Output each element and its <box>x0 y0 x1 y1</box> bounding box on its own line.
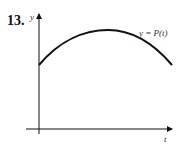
x-axis-label: t <box>164 134 167 144</box>
graph: y t y = P(t) <box>0 0 179 147</box>
y-axis-label: y <box>29 12 34 22</box>
curve-label: y = P(t) <box>138 28 168 38</box>
